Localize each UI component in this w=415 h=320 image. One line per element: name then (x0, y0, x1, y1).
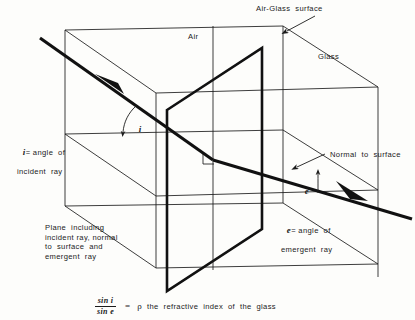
emergent-ray (213, 160, 412, 219)
plane-desc-line3: to surface and (45, 242, 118, 252)
legend-emergent-text1: = angle of (291, 226, 331, 235)
label-normal-to-surface: Normal to surface (330, 150, 401, 160)
legend-emergent-ray: e= angle of emergent ray (272, 216, 332, 254)
fraction-denominator: sin e (95, 307, 116, 317)
legend-emergent-line1: e= angle of (272, 216, 332, 245)
plane-desc-line4: emergent ray (45, 252, 118, 262)
label-glass: Glass (318, 52, 339, 62)
fraction-numerator: sin i (96, 296, 116, 306)
plane-desc-line2: incident ray, normal (45, 233, 118, 243)
callout-normal-to-surface (297, 154, 325, 167)
label-angle-e-symbol: e (295, 177, 309, 206)
arrow-pointer-icon-surface (287, 16, 315, 31)
plane-bottom-edge-far (156, 264, 378, 268)
legend-incident-line1: i= angle of (8, 138, 65, 167)
plane-desc-line1: Plane including (45, 223, 118, 233)
angle-i-glyph: i (139, 124, 142, 134)
label-air-glass-surface: Air-Glass surface (256, 4, 323, 14)
snell-fraction: sin i sin e (95, 296, 116, 316)
refractive-index-formula: sin i sin e = ρ the refractive index of … (95, 296, 276, 316)
plane-bottom-edge-near (65, 203, 283, 206)
incident-ray (40, 38, 213, 160)
legend-incident-text1: = angle of (26, 148, 66, 157)
legend-plane-description: Plane including incident ray, normal to … (45, 223, 118, 261)
arrow-pointer-icon-normal (297, 154, 325, 167)
angle-e-glyph: e (305, 186, 309, 196)
label-angle-i-symbol: i (129, 115, 142, 144)
emergent-ray-line (213, 160, 412, 219)
arrow-right-down-icon-incident (95, 74, 124, 94)
legend-incident-ray: i= angle of incident ray (8, 138, 65, 176)
callout-air-glass-surface (287, 16, 315, 31)
refractive-index-symbol: ρ (137, 301, 142, 311)
legend-emergent-line2: emergent ray (272, 245, 332, 255)
incident-ray-line (40, 38, 213, 160)
formula-description: the refractive index of the glass (147, 302, 276, 311)
figure-canvas: Air-Glass surface Air Glass i e Normal t… (0, 0, 415, 320)
equals-sign: = (125, 301, 130, 311)
label-air: Air (188, 32, 198, 42)
legend-incident-line2: incident ray (8, 167, 65, 177)
